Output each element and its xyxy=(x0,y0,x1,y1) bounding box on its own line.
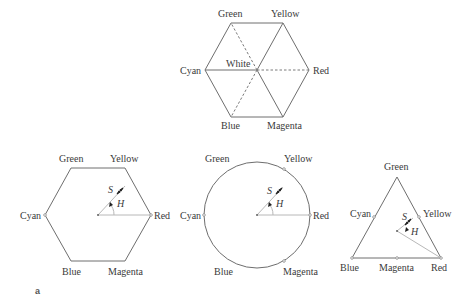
label-blue: Blue xyxy=(62,266,81,277)
label-cyan: Cyan xyxy=(180,210,201,221)
label-cyan: Cyan xyxy=(350,208,371,219)
point-magenta xyxy=(396,257,399,260)
label-red: Red xyxy=(313,65,329,76)
label-red: Red xyxy=(431,262,447,273)
label-green: Green xyxy=(205,153,229,164)
point-cyan xyxy=(373,216,376,219)
saturation-arrow-icon xyxy=(276,188,282,194)
point-yellow xyxy=(418,216,421,219)
hue-arrow-icon xyxy=(405,227,409,232)
edge-white-magenta xyxy=(257,70,283,117)
hexagon-model: S H Green Yellow Cyan Red Blue Magenta xyxy=(20,153,170,277)
label-blue: Blue xyxy=(214,266,233,277)
label-h: H xyxy=(275,198,284,209)
label-green: Green xyxy=(59,153,83,164)
label-cyan: Cyan xyxy=(180,65,201,76)
edge-white-yellow xyxy=(257,23,283,70)
hsi-color-models-diagram: Green Yellow Cyan White Red Blue Magenta… xyxy=(0,0,475,298)
label-blue: Blue xyxy=(340,262,359,273)
label-s: S xyxy=(108,184,113,195)
label-blue: Blue xyxy=(221,120,240,131)
label-magenta: Magenta xyxy=(267,120,303,131)
label-cyan: Cyan xyxy=(20,210,41,221)
label-red: Red xyxy=(313,210,329,221)
label-h: H xyxy=(116,198,125,209)
triangle-model: S H Green Cyan Yellow Blue Magenta Red xyxy=(340,161,452,273)
label-magenta: Magenta xyxy=(379,262,415,273)
center-point xyxy=(97,214,99,216)
label-green: Green xyxy=(218,8,242,19)
center-point xyxy=(256,214,258,216)
label-s: S xyxy=(267,185,272,196)
hidden-edge-blue xyxy=(231,70,257,117)
vertex-blue xyxy=(351,257,354,260)
top-hexagon-cube-projection: Green Yellow Cyan White Red Blue Magenta xyxy=(180,8,329,131)
saturation-arrow-icon xyxy=(117,188,123,194)
hue-reference-line xyxy=(397,231,441,258)
vertex-cyan xyxy=(44,214,47,217)
center-point xyxy=(396,230,398,232)
label-yellow: Yellow xyxy=(423,208,452,219)
label-white: White xyxy=(226,58,251,69)
label-h: H xyxy=(410,226,419,237)
label-red: Red xyxy=(154,210,170,221)
label-yellow: Yellow xyxy=(110,153,139,164)
point-yellow xyxy=(283,168,286,171)
label-magenta: Magenta xyxy=(283,266,319,277)
label-yellow: Yellow xyxy=(284,153,313,164)
label-green: Green xyxy=(384,161,408,172)
point-magenta xyxy=(283,260,286,263)
point-cyan xyxy=(203,214,206,217)
label-magenta: Magenta xyxy=(108,266,144,277)
circle-model: S H Green Yellow Cyan Red Blue Magenta xyxy=(180,153,329,277)
panel-label: a xyxy=(35,286,41,296)
label-yellow: Yellow xyxy=(271,8,300,19)
label-s: S xyxy=(402,211,407,222)
